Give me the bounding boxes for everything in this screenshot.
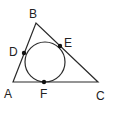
incircle: [25, 42, 65, 82]
label-f: F: [40, 87, 47, 101]
label-b: B: [29, 7, 37, 21]
point-d: [22, 51, 26, 55]
label-d: D: [9, 45, 18, 59]
point-f: [42, 80, 46, 84]
label-a: A: [4, 87, 12, 101]
label-e: E: [64, 36, 72, 50]
label-c: C: [96, 89, 105, 103]
geometry-diagram: B D E A F C: [0, 0, 114, 115]
point-e: [58, 44, 62, 48]
